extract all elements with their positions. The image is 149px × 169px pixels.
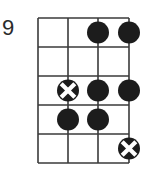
fretboard-grid [0, 0, 149, 169]
root-note-marker-icon [118, 138, 140, 160]
root-note-marker-icon [57, 80, 79, 102]
note-dot-icon [118, 80, 140, 102]
note-dot-icon [57, 109, 79, 131]
note-dot-icon [118, 22, 140, 44]
note-dot-icon [87, 80, 109, 102]
note-dot-icon [87, 22, 109, 44]
note-dot-icon [87, 109, 109, 131]
